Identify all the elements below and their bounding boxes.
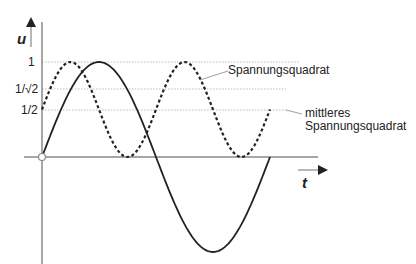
x-axis-label: t	[302, 174, 307, 191]
y-tick-half: 1/2	[21, 104, 38, 117]
y-arrow-head-icon	[26, 17, 36, 27]
y-tick-inv-sqrt2: 1/√2	[15, 83, 38, 96]
y-tick-1: 1	[28, 56, 35, 69]
y-axis-label: u	[17, 30, 26, 47]
leader-mean	[286, 110, 302, 114]
label-voltage-squared: Spannungsquadrat	[228, 64, 329, 77]
x-arrow-head-icon	[318, 165, 328, 175]
origin-marker	[39, 154, 46, 161]
label-mean-line2: Spannungsquadrat	[305, 120, 406, 133]
leader-square	[200, 71, 228, 80]
